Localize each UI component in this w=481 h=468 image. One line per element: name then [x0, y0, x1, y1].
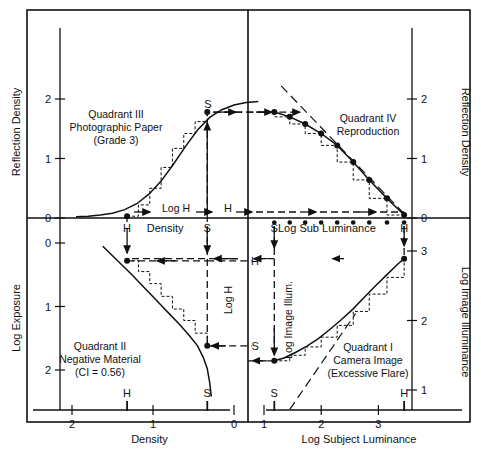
q4-y-tick-label: 2 [421, 93, 427, 105]
q1-x-tick-label: 1 [261, 418, 267, 430]
q2-log-h-label: Log H [222, 286, 234, 314]
q2-y-tick-label: 2 [45, 364, 51, 376]
q2-y-axis-label: Log Exposure [10, 284, 22, 352]
q2-x-tick-label: 2 [69, 418, 75, 430]
q1-title-line1: Quadrant I [343, 341, 393, 353]
q4-point-7 [384, 195, 390, 201]
q1-x-tick-label: 3 [375, 418, 381, 430]
q3-title-line1: Quadrant III [88, 108, 143, 120]
center-h-flow-label: H [224, 202, 232, 214]
axis-dot-2 [303, 220, 308, 225]
q4-point-1 [287, 114, 293, 120]
q1-x-marker-label: S [271, 387, 278, 399]
q1-y-tick-label: 2 [421, 315, 427, 327]
q1-y-tick-label: 3 [421, 245, 427, 257]
q1-x-axis-label: Log Subject Luminance [302, 433, 417, 445]
q1-log-image-illum-label: Log Image Illum. [282, 281, 294, 359]
axis-dot-1 [287, 220, 292, 225]
axis-dot-4 [335, 220, 340, 225]
q1-x-tick-label: 2 [318, 418, 324, 430]
axis-dot-7 [385, 220, 390, 225]
q1-title-line2: Camera Image [333, 354, 403, 366]
axis-dot-8 [402, 220, 407, 225]
q4-title-line1: Quadrant IV [340, 112, 397, 124]
q4-y-tick-label: 1 [421, 153, 427, 165]
q1-x-marker-label: H [400, 387, 408, 399]
q2-h-label: H [251, 255, 259, 267]
tone-reproduction-figure: 210Reflection Density210Reflection Densi… [0, 0, 481, 468]
q1-title-line3: (Excessive Flare) [327, 367, 408, 379]
q4-point-5 [350, 159, 356, 165]
q1-y-axis-label: Log Image Illuminance [460, 267, 472, 378]
q3-y-tick-label: 2 [45, 93, 51, 105]
q4-point-2 [302, 121, 308, 127]
q2-y-tick-label: 0 [45, 237, 51, 249]
log-h-center-label: Log H [162, 202, 190, 214]
q3-y-tick-label: 1 [45, 153, 51, 165]
q1-y-tick-label: 1 [421, 384, 427, 396]
q4-y-tick-label: 0 [421, 212, 427, 224]
center-log-sub-lum-label: Log Sub Luminance [278, 222, 376, 234]
q2-x-axis-label: Density [131, 433, 168, 445]
q3-title-line2: Photographic Paper [70, 121, 163, 133]
axis-dot-0 [272, 220, 277, 225]
q4-point-8 [401, 212, 407, 218]
q2-x-marker-label: H [123, 387, 131, 399]
q2-title-line3: (CI = 0.56) [75, 366, 125, 378]
q3-s-out-label: S [204, 98, 211, 110]
q2-x-tick-label: 1 [150, 418, 156, 430]
q3-title-line3: (Grade 3) [94, 134, 139, 146]
q4-y-axis-label: Reflection Density [460, 88, 472, 177]
q3-point-0 [124, 213, 130, 219]
q2-y-tick-label: 1 [45, 301, 51, 313]
q2-staircase [127, 261, 207, 346]
q2-s-label: S [251, 340, 258, 352]
q3-y-axis-label: Reflection Density [10, 87, 22, 176]
q3-y-tick-label: 0 [45, 212, 51, 224]
center-density-label: Density [147, 222, 184, 234]
q4-point-6 [366, 177, 372, 183]
q2-x-tick-label: 0 [231, 418, 237, 430]
axis-dot-5 [351, 220, 356, 225]
q2-title-line1: Quadrant II [74, 340, 127, 352]
axis-dot-6 [367, 220, 372, 225]
figure-canvas: 210Reflection Density210Reflection Densi… [0, 0, 481, 468]
q4-point-3 [318, 131, 324, 137]
axis-dot-3 [319, 220, 324, 225]
q2-title-line2: Negative Material [59, 353, 141, 365]
q4-point-4 [334, 142, 340, 148]
q4-title-line2: Reproduction [337, 125, 400, 137]
